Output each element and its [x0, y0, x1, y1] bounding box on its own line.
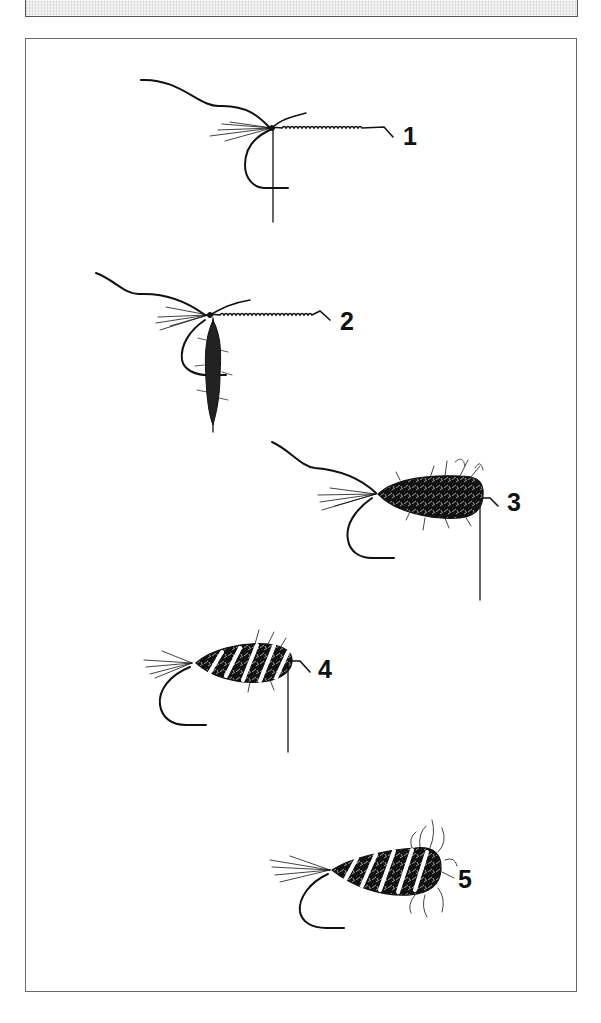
step-4-fly — [144, 630, 310, 752]
step-2-fly — [96, 273, 330, 432]
fly-tying-illustration: 1 2 3 4 — [0, 0, 601, 1023]
step-3-fly — [272, 442, 498, 600]
step-label-5: 5 — [458, 865, 472, 893]
step-label-4: 4 — [318, 655, 332, 683]
step-label-3: 3 — [507, 488, 521, 516]
step-label-2: 2 — [340, 307, 354, 335]
step-1-fly — [141, 80, 393, 222]
step-5-fly — [270, 820, 457, 928]
step-label-1: 1 — [403, 122, 417, 150]
